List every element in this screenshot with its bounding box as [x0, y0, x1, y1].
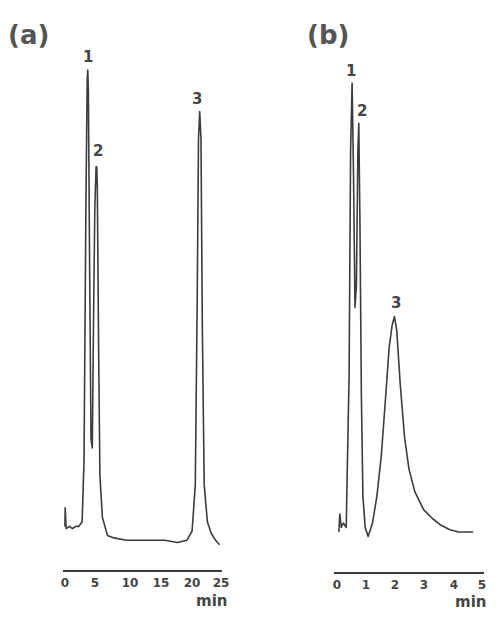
chromatogram-figure: (a) 1 2 3 0 5 10 15 20 25 min (b) 1 2 3 …	[0, 0, 503, 634]
panel-b-tick-3: 3	[420, 578, 428, 592]
panel-a-x-unit: min	[196, 592, 227, 610]
panel-b-label: (b)	[307, 20, 349, 50]
panel-a-peak-1-label: 1	[83, 48, 93, 66]
panel-a: (a) 1 2 3 0 5 10 15 20 25 min	[8, 20, 229, 610]
panel-a-tick-20: 20	[184, 576, 201, 590]
panel-b-trace	[339, 83, 473, 537]
panel-b-tick-2: 2	[391, 578, 399, 592]
panel-a-trace	[65, 70, 220, 545]
panel-a-tick-15: 15	[153, 576, 170, 590]
panel-a-peak-2-label: 2	[93, 142, 103, 160]
panel-a-tick-0: 0	[61, 576, 69, 590]
panel-a-tick-5: 5	[91, 576, 99, 590]
panel-b-tick-4: 4	[450, 578, 458, 592]
panel-a-tick-25: 25	[213, 576, 230, 590]
panel-b-peak-1-label: 1	[346, 62, 356, 80]
panel-b: (b) 1 2 3 0 1 2 3 4 5 min	[307, 20, 486, 611]
panel-a-tick-10: 10	[122, 576, 139, 590]
panel-b-peak-3-label: 3	[391, 294, 401, 312]
panel-a-label: (a)	[8, 20, 49, 50]
panel-b-tick-1: 1	[362, 578, 370, 592]
panel-b-tick-5: 5	[478, 578, 486, 592]
panel-b-tick-0: 0	[333, 578, 341, 592]
panel-b-x-unit: min	[455, 593, 486, 611]
panel-b-peak-2-label: 2	[357, 102, 367, 120]
panel-a-peak-3-label: 3	[192, 90, 202, 108]
